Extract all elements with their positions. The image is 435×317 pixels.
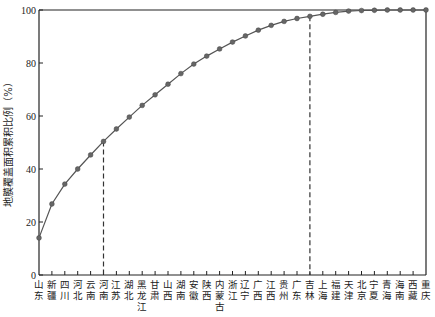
x-tick-label: 山 (163, 279, 173, 290)
x-tick-label: 辽 (240, 279, 250, 290)
data-point-marker (398, 8, 403, 13)
x-tick-label: 东 (34, 290, 44, 301)
data-point-marker (372, 8, 377, 13)
data-point-marker (204, 54, 209, 59)
data-point-marker (282, 19, 287, 24)
data-point-marker (217, 47, 222, 52)
x-tick-label: 河 (73, 279, 83, 290)
x-tick-label: 黑 (137, 279, 147, 290)
data-point-marker (127, 115, 132, 120)
x-tick-label: 江 (111, 279, 121, 290)
y-tick-label: 40 (26, 164, 36, 175)
x-tick-label: 西 (163, 290, 173, 301)
x-tick-label: 林 (305, 290, 315, 301)
data-point-marker (88, 153, 93, 158)
data-series (37, 8, 429, 241)
data-point-marker (411, 8, 416, 13)
x-tick-label: 疆 (47, 290, 57, 301)
x-tick-label: 内 (215, 279, 225, 290)
x-tick-label: 京 (357, 290, 367, 301)
data-point-marker (230, 40, 235, 45)
x-tick-label: 庆 (421, 290, 431, 301)
x-tick-label: 龙 (137, 290, 147, 301)
data-point-marker (333, 10, 338, 15)
data-point-marker (153, 92, 158, 97)
x-tick-label: 肃 (150, 290, 160, 301)
data-point-marker (166, 82, 171, 87)
x-tick-label: 西 (266, 290, 276, 301)
y-tick-label: 80 (26, 58, 36, 69)
x-tick-label: 藏 (408, 290, 418, 301)
x-tick-label: 南 (176, 290, 186, 301)
x-tick-label: 西 (253, 290, 263, 301)
x-tick-label: 吉 (305, 279, 315, 290)
x-tick-label: 古 (215, 301, 225, 312)
x-tick-label: 州 (279, 290, 289, 301)
data-point-marker (424, 8, 429, 13)
x-tick-label: 河 (99, 279, 109, 290)
x-tick-label: 四 (60, 279, 70, 290)
x-tick-label: 东 (292, 290, 302, 301)
y-tick-label: 20 (26, 217, 36, 228)
x-tick-label: 安 (189, 279, 199, 290)
data-point-marker (114, 127, 119, 132)
x-tick-label: 夏 (369, 290, 379, 301)
x-tick-label: 南 (395, 290, 405, 301)
x-tick-label: 青 (382, 279, 392, 290)
x-tick-label: 上 (318, 279, 328, 290)
x-tick-label: 云 (86, 279, 96, 290)
x-tick-label: 广 (253, 279, 263, 290)
x-tick-label: 陕 (202, 279, 212, 290)
x-tick-label: 海 (395, 279, 405, 290)
data-point-marker (37, 236, 42, 241)
data-point-marker (256, 28, 261, 33)
x-tick-label: 山 (34, 279, 44, 290)
data-point-marker (243, 34, 248, 39)
cumulative-area-chart: 020406080100 山东新疆四川河北云南河南江苏湖北黑龙江甘肃山西湖南安徽… (0, 0, 435, 317)
x-tick-label: 天 (344, 279, 354, 290)
data-point-marker (308, 14, 313, 19)
x-tick-label: 宁 (240, 290, 250, 301)
x-tick-label: 南 (99, 290, 109, 301)
x-tick-label: 贵 (279, 279, 289, 290)
data-point-marker (385, 8, 390, 13)
x-tick-label: 江 (266, 279, 276, 290)
x-tick-label: 新 (47, 279, 57, 290)
x-tick-label: 川 (60, 290, 70, 301)
x-tick-label: 湖 (176, 279, 186, 290)
data-point-marker (62, 182, 67, 187)
x-tick-label: 浙 (228, 279, 238, 290)
x-tick-label: 宁 (369, 279, 379, 290)
x-axis-ticks: 山东新疆四川河北云南河南江苏湖北黑龙江甘肃山西湖南安徽陕西内蒙古浙江辽宁广西江西… (34, 271, 431, 312)
x-tick-label: 江 (137, 301, 147, 312)
x-tick-label: 建 (331, 290, 341, 301)
x-tick-label: 西 (202, 290, 212, 301)
axes (39, 10, 426, 275)
data-point-marker (295, 16, 300, 21)
x-tick-label: 蒙 (215, 290, 225, 301)
data-point-marker (359, 8, 364, 13)
x-tick-label: 甘 (150, 279, 160, 290)
x-tick-label: 福 (331, 279, 341, 290)
y-tick-label: 100 (21, 5, 36, 16)
x-tick-label: 江 (228, 290, 238, 301)
x-tick-label: 湖 (124, 279, 134, 290)
x-tick-label: 北 (124, 290, 134, 301)
x-tick-label: 广 (292, 279, 302, 290)
x-tick-label: 津 (344, 290, 354, 301)
x-tick-label: 苏 (111, 290, 121, 301)
data-point-marker (269, 23, 274, 28)
data-point-marker (75, 167, 80, 172)
data-point-marker (140, 103, 145, 108)
data-point-marker (346, 9, 351, 14)
data-point-marker (179, 71, 184, 76)
data-point-marker (101, 139, 106, 144)
x-tick-label: 重 (421, 279, 431, 290)
x-tick-label: 西 (408, 279, 418, 290)
y-tick-label: 60 (26, 111, 36, 122)
x-tick-label: 北 (73, 290, 83, 301)
data-point-marker (191, 62, 196, 67)
data-point-marker (50, 202, 55, 207)
x-tick-label: 海 (318, 290, 328, 301)
y-axis-label: 地膜覆盖面积累积比例（%） (2, 77, 14, 207)
